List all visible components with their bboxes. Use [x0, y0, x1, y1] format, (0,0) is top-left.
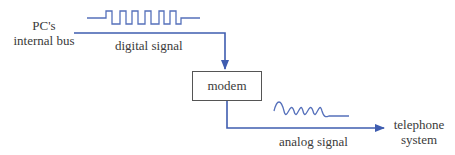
destination-label: telephone system — [386, 117, 452, 147]
modem-label: modem — [208, 78, 247, 94]
modem-node: modem — [192, 71, 262, 101]
source-label-line2: internal bus — [12, 33, 76, 48]
digital-signal-label: digital signal — [115, 38, 183, 53]
analog-waveform-icon — [274, 102, 349, 117]
source-label-line1: PC's — [12, 18, 76, 33]
destination-label-line2: system — [386, 132, 452, 147]
destination-label-line1: telephone — [386, 117, 452, 132]
source-label: PC's internal bus — [12, 18, 76, 48]
digital-waveform-icon — [87, 11, 200, 24]
analog-signal-label: analog signal — [279, 134, 348, 149]
